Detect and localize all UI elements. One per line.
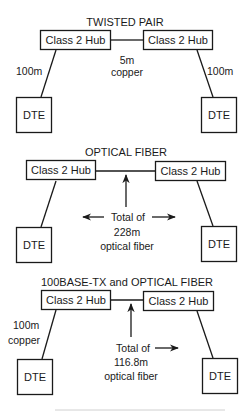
dte-left: DTE bbox=[18, 360, 53, 395]
right-dte-link bbox=[197, 181, 213, 226]
left-link-length: 100m bbox=[16, 65, 43, 77]
left-link-length: 100m bbox=[13, 319, 40, 331]
dte-right: DTE bbox=[203, 359, 238, 394]
note-line-2: 116.8m bbox=[114, 356, 148, 368]
hub-label: Class 2 Hub bbox=[149, 295, 209, 307]
hub-label: Class 2 Hub bbox=[148, 34, 208, 46]
dte-label: DTE bbox=[209, 370, 231, 382]
hub-label: Class 2 Hub bbox=[161, 165, 221, 177]
dte-label: DTE bbox=[23, 109, 45, 121]
note-line-2: 228m bbox=[114, 226, 141, 238]
hub-label: Class 2 Hub bbox=[46, 294, 106, 306]
dte-left: DTE bbox=[17, 98, 52, 133]
note-line-1: Total of bbox=[111, 211, 145, 223]
left-dte-link bbox=[41, 50, 56, 97]
right-link-length: 100m bbox=[207, 65, 234, 77]
section-title: TWISTED PAIR bbox=[86, 16, 163, 28]
hub-right: Class 2 Hub bbox=[144, 31, 213, 50]
hub-label: Class 2 Hub bbox=[46, 34, 106, 46]
section-100base-tx-and-optical-fiber: 100BASE-TX and OPTICAL FIBER Class 2 Hub… bbox=[8, 276, 238, 395]
section-title: OPTICAL FIBER bbox=[85, 146, 167, 158]
note-line-3: optical fiber bbox=[104, 370, 158, 382]
dte-left: DTE bbox=[17, 228, 52, 263]
hub-left: Class 2 Hub bbox=[27, 161, 96, 180]
left-dte-link bbox=[42, 310, 56, 359]
hub-right: Class 2 Hub bbox=[156, 162, 226, 181]
dte-label: DTE bbox=[23, 239, 45, 251]
hub-label: Class 2 Hub bbox=[31, 164, 91, 176]
left-dte-link bbox=[41, 181, 56, 227]
hub-link-length: 5m bbox=[120, 54, 135, 66]
hub-left: Class 2 Hub bbox=[42, 291, 111, 310]
hub-left: Class 2 Hub bbox=[41, 31, 111, 50]
section-optical-fiber: OPTICAL FIBER Class 2 Hub Class 2 Hub To… bbox=[17, 146, 237, 263]
dte-label: DTE bbox=[24, 371, 46, 383]
right-dte-link bbox=[197, 311, 213, 358]
note-line-3: optical fiber bbox=[100, 240, 154, 252]
dte-label: DTE bbox=[208, 238, 230, 250]
left-link-medium: copper bbox=[8, 334, 41, 346]
note-line-1: Total of bbox=[116, 342, 150, 354]
network-diagram: TWISTED PAIR Class 2 Hub Class 2 Hub 5m … bbox=[0, 0, 252, 412]
dte-right: DTE bbox=[202, 98, 237, 133]
hub-right: Class 2 Hub bbox=[144, 292, 214, 311]
dte-right: DTE bbox=[202, 227, 237, 262]
section-twisted-pair: TWISTED PAIR Class 2 Hub Class 2 Hub 5m … bbox=[16, 16, 237, 133]
hub-link-medium: copper bbox=[111, 66, 144, 78]
dte-label: DTE bbox=[208, 109, 230, 121]
section-title: 100BASE-TX and OPTICAL FIBER bbox=[41, 276, 213, 288]
